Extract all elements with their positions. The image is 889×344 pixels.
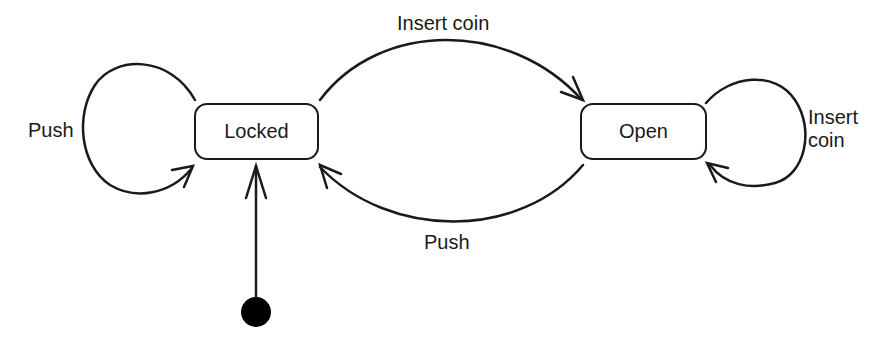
- transition-locked-self-push: [83, 64, 195, 193]
- state-locked[interactable]: Locked: [194, 103, 319, 160]
- state-open-label: Open: [619, 120, 668, 143]
- label-line: coin: [808, 129, 858, 152]
- diagram-canvas: [0, 0, 889, 344]
- label-push: Push: [424, 231, 470, 254]
- label-locked-self-push: Push: [28, 119, 74, 142]
- transition-open-self-insert-coin: [706, 80, 805, 186]
- label-line: Insert: [808, 106, 858, 129]
- transition-open-locked-push: [320, 165, 583, 222]
- initial-state-dot: [241, 297, 271, 327]
- label-open-self-insert-coin: Insert coin: [808, 106, 858, 152]
- state-locked-label: Locked: [224, 120, 289, 143]
- state-open[interactable]: Open: [580, 103, 707, 160]
- transition-locked-open-insert-coin: [320, 40, 582, 100]
- label-insert-coin: Insert coin: [397, 12, 489, 35]
